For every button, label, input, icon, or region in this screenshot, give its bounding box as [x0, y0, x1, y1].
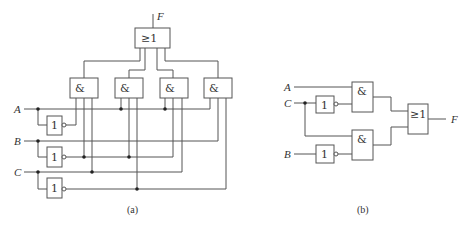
- not-gate-b-bubble: [334, 152, 338, 156]
- wire-b-to-not2: [38, 141, 47, 157]
- wire-c-to-not3: [38, 172, 47, 189]
- output-label-f: F: [450, 113, 458, 125]
- input-label-c: C: [284, 97, 292, 109]
- not-gate-c-symbol: 1: [321, 99, 328, 112]
- caption-b: (b): [357, 204, 369, 216]
- not-gate-3-bubble: [62, 187, 66, 191]
- junction-dot: [303, 101, 307, 105]
- input-label-b: B: [14, 135, 21, 147]
- junction-dot: [90, 170, 94, 174]
- input-label-a: A: [283, 81, 291, 93]
- junction-dot: [163, 107, 167, 111]
- and-gate-3-symbol: &: [165, 82, 175, 95]
- or-gate-symbol: ≥1: [410, 108, 426, 121]
- and-gate-1-symbol: &: [75, 82, 85, 95]
- input-label-c: C: [14, 166, 22, 178]
- and-gate-2-symbol: &: [357, 133, 367, 146]
- diagram-b: A C B 1 1 & & ≥1 F (b): [283, 81, 458, 216]
- not-gate-1-symbol: 1: [51, 119, 58, 132]
- not-gate-b-symbol: 1: [321, 148, 328, 161]
- wire-and1-to-or: [84, 48, 140, 78]
- or-gate-symbol: ≥1: [141, 32, 157, 45]
- junction-dot: [82, 155, 86, 159]
- junction-dot: [135, 187, 139, 191]
- caption-a: (a): [127, 204, 138, 216]
- not-gate-2-bubble: [62, 155, 66, 159]
- logic-circuit-figure: F ≥1 & & & & A B C 1: [0, 0, 466, 225]
- wire-notc: [66, 98, 226, 189]
- junction-dot: [127, 155, 131, 159]
- wire-nota-to-and1: [66, 98, 76, 125]
- not-gate-3-symbol: 1: [51, 182, 58, 195]
- diagram-a: F ≥1 & & & & A B C 1: [13, 10, 232, 216]
- not-gate-1-bubble: [62, 123, 66, 127]
- wire-and2-to-or: [373, 127, 408, 145]
- and-gate-2-symbol: &: [120, 82, 130, 95]
- and-gate-4-symbol: &: [209, 82, 219, 95]
- junction-dot: [36, 170, 40, 174]
- not-gate-c-bubble: [334, 102, 338, 106]
- not-gate-2-symbol: 1: [51, 151, 58, 164]
- wire-and2-to-or: [129, 48, 145, 78]
- junction-dot: [119, 107, 123, 111]
- wire-notb: [66, 98, 173, 157]
- wire-a-to-not1: [38, 109, 47, 125]
- output-label-f: F: [156, 10, 164, 22]
- wire-and1-to-or: [373, 97, 408, 111]
- input-label-a: A: [13, 103, 21, 115]
- junction-dot: [36, 107, 40, 111]
- junction-dot: [36, 139, 40, 143]
- input-label-b: B: [284, 148, 291, 160]
- and-gate-1-symbol: &: [357, 85, 367, 98]
